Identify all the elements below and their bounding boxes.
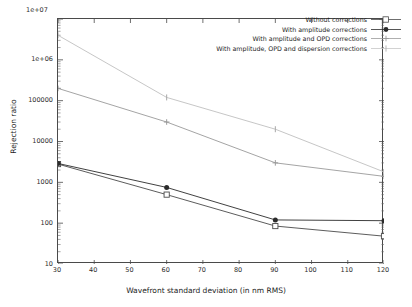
legend-label-without-corrections: Without corrections [305, 16, 367, 23]
x-tick-label: 50 [114, 266, 144, 274]
legend-item-with-amplitude-and-opd-corrections[interactable]: With amplitude and OPD corrections [196, 34, 402, 44]
plot-area [57, 18, 383, 263]
legend-item-with-amplitude-corrections[interactable]: With amplitude corrections [196, 25, 402, 35]
x-tick-label: 70 [187, 266, 217, 274]
x-tick-label: 60 [151, 266, 181, 274]
chart-figure: 1e+07 Without corrections With amplitude… [0, 0, 412, 307]
y-tick-label: 100000 [13, 96, 53, 104]
legend-marker-filled-circle [370, 25, 402, 34]
x-tick-label: 90 [259, 266, 289, 274]
y-tick-label: 10000 [13, 137, 53, 145]
legend-marker-open-square [370, 15, 402, 24]
legend-marker-cross [370, 44, 402, 53]
y-tick-label: 100 [13, 219, 53, 227]
legend-item-with-amplitude-opd-and-dispersion-corrections[interactable]: With amplitude, OPD and dispersion corre… [196, 44, 402, 54]
y-tick-label: 1e+06 [13, 55, 53, 63]
chart-legend: Without corrections With amplitude corre… [196, 15, 402, 53]
x-tick-label: 110 [332, 266, 362, 274]
y-tick-label: 10 [13, 260, 53, 268]
x-tick-label: 80 [223, 266, 253, 274]
data-series-svg [58, 19, 384, 264]
x-tick-label: 40 [78, 266, 108, 274]
x-tick-label: 120 [368, 266, 398, 274]
legend-label-with-amplitude-and-opd-corrections: With amplitude and OPD corrections [253, 35, 368, 42]
legend-marker-plus [370, 34, 402, 43]
legend-item-without-corrections[interactable]: Without corrections [196, 15, 402, 25]
y-axis-exponent-label: 1e+07 [26, 6, 48, 14]
legend-label-with-amplitude-corrections: With amplitude corrections [282, 26, 367, 33]
x-axis-title: Wavefront standard deviation (in nm RMS) [0, 286, 412, 295]
y-axis-title: Rejection ratio [9, 82, 18, 172]
legend-label-with-amplitude-opd-and-dispersion-corrections: With amplitude, OPD and dispersion corre… [216, 45, 367, 52]
x-tick-label: 100 [296, 266, 326, 274]
y-tick-label: 1000 [13, 178, 53, 186]
